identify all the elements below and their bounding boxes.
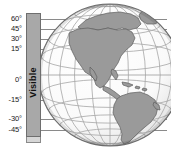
- visible-band-foot: [26, 137, 41, 143]
- tick-label-45: 45°: [0, 25, 22, 33]
- tick-label-minus30: -30°: [0, 115, 22, 123]
- globe-latitude-visibility-diagram: 60° 45° 30° 15° 0° -15° -30° -45°: [0, 0, 171, 151]
- tick-label-minus15: -15°: [0, 96, 22, 104]
- tick-label-60: 60°: [0, 15, 22, 23]
- tick-label-15: 15°: [0, 45, 22, 53]
- tick-label-minus45: -45°: [0, 126, 22, 134]
- tick-label-30: 30°: [0, 35, 22, 43]
- earth-globe: [38, 3, 171, 149]
- visible-latitude-band: [26, 13, 41, 137]
- tick-label-0: 0°: [0, 76, 22, 84]
